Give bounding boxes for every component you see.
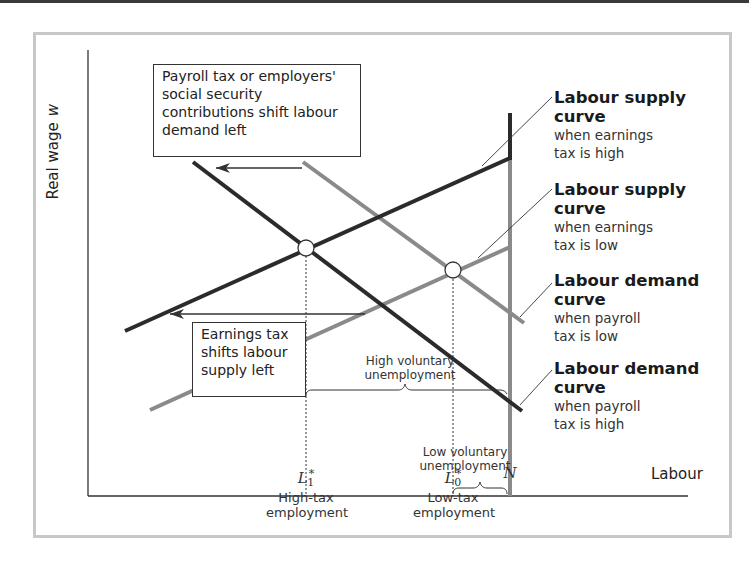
leader-line xyxy=(520,370,552,405)
y-axis-label-text: Real wage xyxy=(44,122,62,199)
tick-subscript: 0 xyxy=(454,476,461,489)
y-axis-label: Real wagew xyxy=(44,104,62,200)
legend-title: Labour demand curve xyxy=(554,271,724,309)
tick-label: Low-tax employment xyxy=(413,490,493,520)
legend-subtitle: when earnings tax is high xyxy=(554,126,664,162)
tick-symbol: N xyxy=(503,464,516,482)
labour-demand-low-tax xyxy=(303,162,524,323)
tick-label: High-tax employment xyxy=(266,490,346,520)
leader-line xyxy=(478,189,552,258)
legend-title: Labour supply curve xyxy=(554,88,724,126)
demand-shift-callout: Payroll tax or employers' social securit… xyxy=(153,64,361,157)
high-unemployment-label: High voluntary unemployment xyxy=(360,354,460,382)
legend-demand-low: Labour demand curve when payroll tax is … xyxy=(554,271,724,345)
tick-l0: L*0 Low-tax employment xyxy=(403,466,503,520)
legend-subtitle: when payroll tax is high xyxy=(554,397,654,433)
legend-subtitle: when earnings tax is low xyxy=(554,218,664,254)
high-unemployment-brace xyxy=(306,384,507,396)
legend-demand-high: Labour demand curve when payroll tax is … xyxy=(554,359,724,433)
equilibrium-high-tax xyxy=(298,240,314,256)
y-axis-variable: w xyxy=(44,104,62,116)
equilibrium-low-tax xyxy=(445,262,461,278)
legend-title: Labour supply curve xyxy=(554,180,724,218)
legend-supply-low: Labour supply curve when earnings tax is… xyxy=(554,180,724,254)
leader-line xyxy=(520,283,552,317)
labour-supply-high-tax xyxy=(125,158,510,331)
tick-l1: L*1 High-tax employment xyxy=(256,466,356,520)
tick-subscript: 1 xyxy=(307,476,314,489)
supply-shift-text: Earnings tax shifts labour supply left xyxy=(201,326,289,378)
legend-subtitle: when payroll tax is low xyxy=(554,309,654,345)
leader-line xyxy=(482,97,552,166)
x-axis-label: Labour xyxy=(651,465,703,483)
high-unemployment-text: High voluntary unemployment xyxy=(364,354,455,382)
tick-n: N xyxy=(490,466,530,481)
supply-shift-callout: Earnings tax shifts labour supply left xyxy=(192,322,306,397)
legend-supply-high: Labour supply curve when earnings tax is… xyxy=(554,88,724,162)
demand-shift-text: Payroll tax or employers' social securit… xyxy=(162,68,338,138)
legend-title: Labour demand curve xyxy=(554,359,724,397)
